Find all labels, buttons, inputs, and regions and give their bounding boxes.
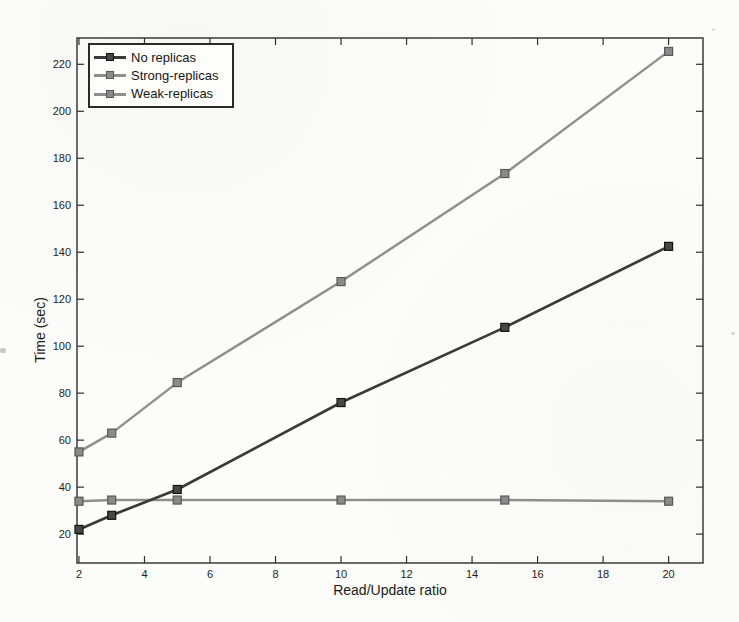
y-tick-label: 140	[53, 246, 71, 258]
legend-label: No replicas	[131, 50, 196, 65]
x-axis-label: Read/Update ratio	[77, 582, 703, 598]
legend: No replicas Strong-replicas Weak-replica…	[88, 43, 234, 108]
y-tick-label: 160	[53, 199, 71, 211]
x-tick-label: 2	[76, 568, 82, 580]
data-point-marker-strong-replicas	[501, 170, 509, 178]
legend-label: Strong-replicas	[131, 68, 218, 83]
y-axis-label: Time (sec)	[32, 275, 48, 385]
legend-line-sample	[94, 89, 126, 99]
data-point-marker-strong-replicas	[75, 448, 83, 456]
x-tick-label: 10	[335, 568, 347, 580]
y-tick-label: 80	[59, 387, 71, 399]
scan-artifact	[731, 332, 735, 335]
x-tick-label: 8	[272, 568, 278, 580]
square-marker-icon	[106, 71, 114, 79]
x-tick-label: 18	[597, 568, 609, 580]
x-tick-label: 14	[466, 568, 478, 580]
legend-item-no-replicas: No replicas	[94, 48, 228, 66]
data-point-marker-no-replicas	[665, 242, 673, 250]
legend-line-sample	[94, 70, 126, 80]
y-tick-label: 20	[59, 528, 71, 540]
scan-artifact	[0, 348, 6, 353]
data-point-marker-weak-replicas	[108, 496, 116, 504]
x-tick-label: 20	[662, 568, 674, 580]
data-point-marker-no-replicas	[337, 399, 345, 407]
data-point-marker-weak-replicas	[337, 496, 345, 504]
scan-artifact	[712, 28, 715, 31]
series-line-weak-replicas	[79, 500, 669, 501]
y-tick-label: 200	[53, 105, 71, 117]
data-point-marker-no-replicas	[173, 485, 181, 493]
y-tick-label: 40	[59, 481, 71, 493]
data-point-marker-no-replicas	[75, 525, 83, 533]
x-tick-label: 16	[531, 568, 543, 580]
square-marker-icon	[106, 90, 114, 98]
x-tick-label: 6	[207, 568, 213, 580]
series-line-no-replicas	[79, 246, 669, 529]
legend-item-strong-replicas: Strong-replicas	[94, 66, 228, 84]
y-tick-label: 120	[53, 293, 71, 305]
data-point-marker-weak-replicas	[173, 496, 181, 504]
data-point-marker-weak-replicas	[665, 497, 673, 505]
square-marker-icon	[106, 53, 114, 61]
data-point-marker-strong-replicas	[173, 379, 181, 387]
legend-label: Weak-replicas	[131, 86, 213, 101]
series-line-strong-replicas	[79, 51, 669, 452]
data-point-marker-strong-replicas	[665, 47, 673, 55]
legend-item-weak-replicas: Weak-replicas	[94, 85, 228, 103]
data-point-marker-no-replicas	[108, 511, 116, 519]
chart-figure: 2468101214161820204060801001201401601802…	[0, 0, 739, 622]
data-point-marker-strong-replicas	[108, 429, 116, 437]
axis-frame	[77, 38, 703, 563]
data-point-marker-weak-replicas	[75, 497, 83, 505]
data-point-marker-no-replicas	[501, 323, 509, 331]
y-tick-label: 220	[53, 58, 71, 70]
data-point-marker-weak-replicas	[501, 496, 509, 504]
data-point-marker-strong-replicas	[337, 278, 345, 286]
y-tick-label: 100	[53, 340, 71, 352]
x-tick-label: 12	[400, 568, 412, 580]
y-tick-label: 60	[59, 434, 71, 446]
legend-line-sample	[94, 52, 126, 62]
x-tick-label: 4	[141, 568, 147, 580]
y-tick-label: 180	[53, 152, 71, 164]
